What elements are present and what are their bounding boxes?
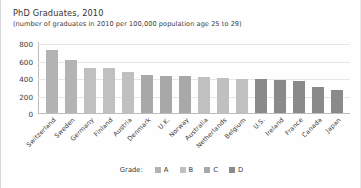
bar-slot [42, 44, 61, 113]
bar [179, 76, 191, 113]
legend-label: C [213, 166, 218, 174]
bar [65, 60, 77, 113]
x-axis-line [38, 113, 350, 114]
legend-entry[interactable]: D [229, 166, 243, 174]
x-axis-tick-label: Switzerland [24, 116, 57, 149]
x-axis-tick-labels: SwitzerlandSwedenGermanyFinlandAustriaDe… [38, 115, 350, 160]
legend-entry[interactable]: A [155, 166, 169, 174]
bar-slot [137, 44, 156, 113]
bar-slot [61, 44, 80, 113]
bar-slot [156, 44, 175, 113]
legend-entry[interactable]: C [204, 166, 218, 174]
bar-slot [271, 44, 290, 113]
x-tick-slot: Japan [328, 115, 347, 160]
x-axis-tick-label: U.S. [252, 116, 267, 131]
plot-area [38, 44, 350, 114]
bar-slot [175, 44, 194, 113]
legend-swatch-icon [229, 167, 235, 173]
title-block: PhD Graduates, 2010 (number of graduates… [13, 8, 353, 29]
y-axis-tick-label: 800 [19, 40, 33, 49]
bar [198, 77, 210, 113]
legend-label: B [189, 166, 194, 174]
legend-label: D [238, 166, 243, 174]
x-tick-slot: Ireland [271, 115, 290, 160]
bar [255, 79, 267, 113]
bar-slot [80, 44, 99, 113]
chart-subtitle: (number of graduates in 2010 per 100,000… [13, 19, 353, 29]
legend-swatch-icon [155, 167, 161, 173]
bar [141, 75, 153, 113]
bar [160, 76, 172, 113]
chart-title: PhD Graduates, 2010 [13, 8, 353, 19]
bar-slot [118, 44, 137, 113]
bar [217, 78, 229, 113]
bar-slot [252, 44, 271, 113]
legend-title: Grade: [120, 166, 143, 174]
bar-series [38, 44, 350, 113]
y-axis-tick-label: 400 [19, 75, 33, 84]
bar [274, 80, 286, 113]
legend-swatch-icon [180, 167, 186, 173]
x-tick-slot: U.S. [252, 115, 271, 160]
bar [46, 50, 58, 113]
legend-swatch-icon [204, 167, 210, 173]
x-axis-tick-label: U.K. [156, 116, 171, 131]
bar-slot [233, 44, 252, 113]
legend: Grade: ABCD [1, 166, 361, 174]
bar-slot [290, 44, 309, 113]
bar [103, 68, 115, 113]
y-axis-tick-label: 0 [28, 110, 33, 119]
y-axis-tick-label: 600 [19, 57, 33, 66]
bar-slot [214, 44, 233, 113]
x-tick-slot: Canada [309, 115, 328, 160]
legend-entry[interactable]: B [180, 166, 194, 174]
bar [293, 81, 305, 113]
x-axis-tick-label: Japan [325, 116, 344, 135]
bar [331, 90, 343, 113]
bar [122, 72, 134, 113]
x-tick-slot: Finland [99, 115, 118, 160]
bar-slot [195, 44, 214, 113]
x-tick-slot: Denmark [137, 115, 156, 160]
bar [312, 87, 324, 113]
y-axis-tick-label: 200 [19, 92, 33, 101]
bar [84, 68, 96, 113]
bar-slot [99, 44, 118, 113]
y-axis-tick-labels: 8006004002000 [1, 41, 35, 115]
bar-slot [328, 44, 347, 113]
bar [236, 79, 248, 114]
bar-slot [309, 44, 328, 113]
x-tick-slot: Belgium [233, 115, 252, 160]
legend-label: A [164, 166, 169, 174]
chart-figure: PhD Graduates, 2010 (number of graduates… [0, 0, 361, 188]
